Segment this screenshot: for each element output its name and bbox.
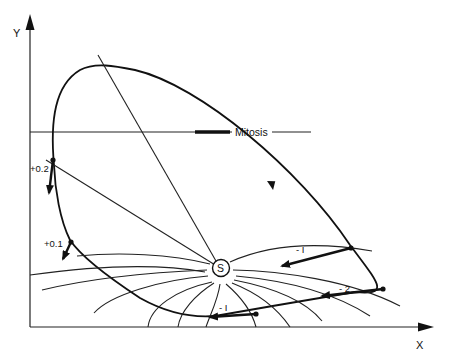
x-axis-label-text: X [416, 339, 424, 351]
x-axis [30, 323, 434, 332]
y-axis-arrow-icon [26, 14, 35, 30]
isochron-line-0-2 [46, 160, 220, 268]
label-plus-0-2: +0.2 [30, 163, 49, 174]
phase-diagram: Y X Mitosis S [0, 0, 453, 357]
label-plus-0-1: +0.1 [44, 238, 63, 249]
y-axis-label: Y [13, 27, 21, 39]
reset-arrow-minus1-upper [282, 245, 354, 266]
label-minus-2: - 2 [339, 283, 350, 294]
singular-point-label: S [217, 262, 224, 274]
label-minus-1-lower: - I [219, 302, 227, 313]
reset-arrow-plus0-1 [63, 239, 74, 259]
label-minus-1-upper: - I [296, 244, 304, 255]
x-axis-arrow-icon [418, 323, 434, 332]
isochron-line-top [98, 55, 220, 268]
cycle-direction-arrow-icon [267, 179, 277, 190]
